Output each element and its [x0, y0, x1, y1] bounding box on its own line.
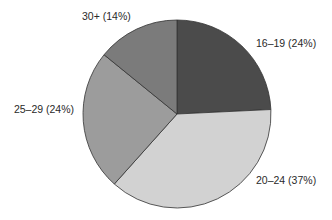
- slice-label: 16–19 (24%): [256, 37, 316, 49]
- pie-slices: [83, 20, 271, 208]
- pie-slice-16-19: [177, 20, 271, 114]
- pie-chart: 16–19 (24%)20–24 (37%)25–29 (24%)30+ (14…: [0, 0, 332, 220]
- slice-label: 25–29 (24%): [14, 103, 74, 115]
- slice-label: 30+ (14%): [82, 10, 131, 22]
- slice-label: 20–24 (37%): [256, 174, 316, 186]
